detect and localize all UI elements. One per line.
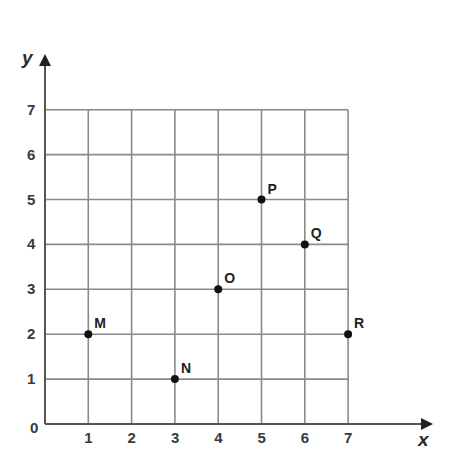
point-label-m: M bbox=[94, 315, 106, 331]
data-points: MNOPQR bbox=[84, 181, 364, 384]
coordinate-plane: xy 012345671234567 MNOPQR bbox=[0, 0, 454, 473]
x-axis-label: x bbox=[417, 429, 430, 450]
point-label-o: O bbox=[224, 270, 235, 286]
point-label-q: Q bbox=[311, 225, 322, 241]
point-label-p: P bbox=[268, 181, 277, 197]
y-tick-label: 1 bbox=[27, 370, 35, 387]
x-tick-label: 2 bbox=[128, 429, 136, 446]
point-p bbox=[258, 196, 266, 204]
x-tick-label: 3 bbox=[171, 429, 179, 446]
y-axis-label: y bbox=[21, 47, 34, 68]
y-axis-arrow-icon bbox=[39, 54, 51, 66]
y-tick-label: 6 bbox=[27, 146, 35, 163]
y-tick-label: 2 bbox=[27, 325, 35, 342]
tick-labels: 012345671234567 bbox=[27, 101, 352, 446]
y-tick-label: 3 bbox=[27, 280, 35, 297]
x-tick-label: 4 bbox=[214, 429, 223, 446]
grid-lines bbox=[45, 110, 348, 424]
point-label-n: N bbox=[181, 360, 191, 376]
x-tick-label: 7 bbox=[344, 429, 352, 446]
x-tick-label: 1 bbox=[84, 429, 92, 446]
point-q bbox=[301, 240, 309, 248]
x-tick-label: 6 bbox=[301, 429, 309, 446]
y-tick-label: 7 bbox=[27, 101, 35, 118]
x-tick-label: 5 bbox=[258, 429, 266, 446]
point-n bbox=[171, 375, 179, 383]
point-r bbox=[344, 330, 352, 338]
y-tick-label: 4 bbox=[27, 235, 36, 252]
point-o bbox=[214, 285, 222, 293]
axes: xy bbox=[21, 47, 433, 450]
point-label-r: R bbox=[354, 315, 364, 331]
point-m bbox=[84, 330, 92, 338]
origin-label: 0 bbox=[30, 419, 38, 436]
y-tick-label: 5 bbox=[27, 191, 35, 208]
